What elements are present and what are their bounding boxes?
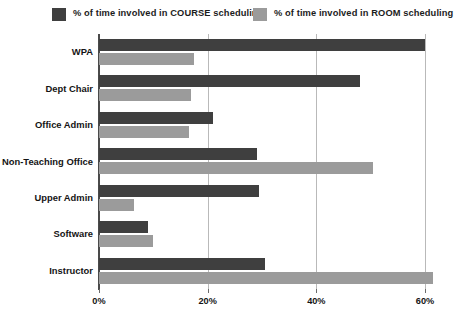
category-label: Dept Chair bbox=[0, 84, 93, 93]
x-tick-label: 0% bbox=[69, 297, 129, 306]
category-label: Instructor bbox=[0, 266, 93, 275]
x-axis: 0%20%40%60% bbox=[0, 289, 447, 314]
category-label: Non-Teaching Office bbox=[0, 157, 93, 166]
x-tick-label: 20% bbox=[178, 297, 238, 306]
x-tick-mark bbox=[316, 289, 317, 293]
category-label: WPA bbox=[0, 47, 93, 56]
category-label: Software bbox=[0, 229, 93, 238]
x-tick-mark bbox=[208, 289, 209, 293]
x-tick-mark bbox=[99, 289, 100, 293]
category-label: Upper Admin bbox=[0, 193, 93, 202]
x-tick-mark bbox=[425, 289, 426, 293]
x-tick-label: 40% bbox=[286, 297, 346, 306]
category-label: Office Admin bbox=[0, 120, 93, 129]
category-labels: WPADept ChairOffice AdminNon-Teaching Of… bbox=[0, 34, 447, 289]
x-tick-label: 60% bbox=[395, 297, 455, 306]
